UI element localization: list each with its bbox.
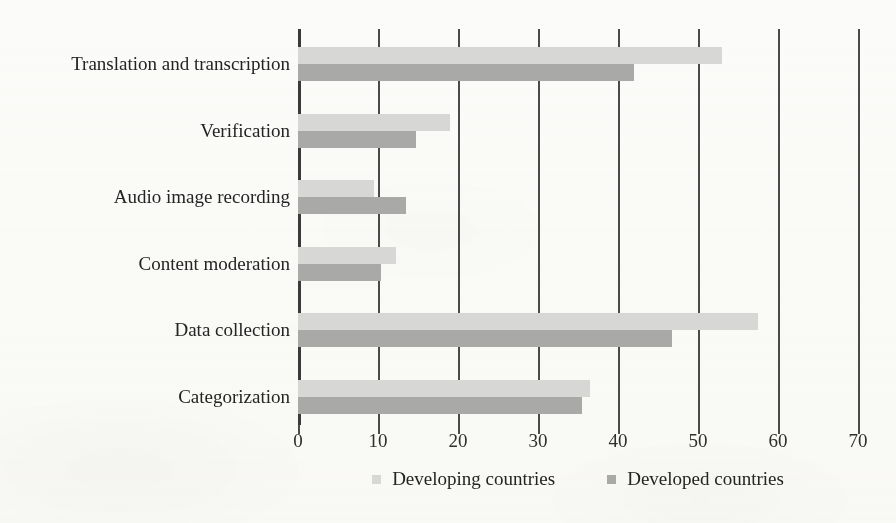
x-axis-tick-label: 40 (593, 430, 643, 452)
category-label: Content moderation (5, 252, 290, 276)
bar (298, 397, 582, 414)
x-axis-tick-label: 60 (753, 430, 803, 452)
x-axis-tick-label: 0 (273, 430, 323, 452)
bar (298, 131, 416, 148)
legend-swatch-developed (607, 475, 616, 484)
category-label: Data collection (5, 318, 290, 342)
gridline-50 (698, 29, 700, 425)
category-label: Verification (5, 119, 290, 143)
gridline-40 (618, 29, 620, 425)
legend-label: Developed countries (627, 468, 784, 490)
category-axis-labels: Translation and transcriptionVerificatio… (0, 0, 290, 440)
category-label: Audio image recording (5, 185, 290, 209)
gridline-10 (378, 29, 380, 425)
bar (298, 180, 374, 197)
bar (298, 197, 406, 214)
chart-legend: Developing countriesDeveloped countries (298, 468, 858, 490)
gridline-20 (458, 29, 460, 425)
legend-label: Developing countries (392, 468, 555, 490)
bar (298, 264, 381, 281)
gridline-70 (858, 29, 860, 425)
bar (298, 247, 396, 264)
bar-chart-figure: Translation and transcriptionVerificatio… (0, 0, 896, 523)
x-axis-tick-label: 10 (353, 430, 403, 452)
legend-entry[interactable]: Developed countries (607, 468, 784, 490)
legend-swatch-developing (372, 475, 381, 484)
y-axis-line (298, 29, 301, 425)
x-axis-tick-label: 70 (833, 430, 883, 452)
category-label: Categorization (5, 385, 290, 409)
gridline-60 (778, 29, 780, 425)
bar (298, 114, 450, 131)
legend-entry[interactable]: Developing countries (372, 468, 555, 490)
bar (298, 313, 758, 330)
x-axis-tick-label: 30 (513, 430, 563, 452)
bar (298, 64, 634, 81)
category-label: Translation and transcription (5, 52, 290, 76)
bar (298, 47, 722, 64)
x-axis-tick-label: 50 (673, 430, 723, 452)
gridline-30 (538, 29, 540, 425)
x-axis-tick-label: 20 (433, 430, 483, 452)
bar (298, 330, 672, 347)
bar (298, 380, 590, 397)
plot-area (298, 29, 858, 425)
